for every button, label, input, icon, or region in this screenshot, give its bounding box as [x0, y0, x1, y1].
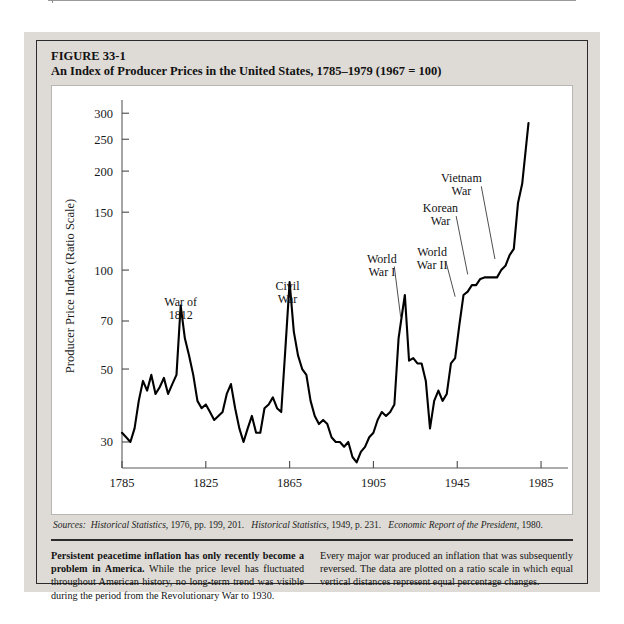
x-tick-label: 1985 — [529, 476, 554, 490]
annotation-label: War — [452, 184, 472, 198]
figure-title: An Index of Producer Prices in the Unite… — [51, 64, 571, 79]
sources-body: Historical Statistics, 1976, pp. 199, 20… — [86, 520, 545, 530]
annotation-label: 1812 — [169, 308, 193, 322]
annotation-label: War I — [368, 265, 395, 279]
y-tick-label: 30 — [101, 435, 114, 449]
running-head-title: VARIATIONS ON MONEY AND MONETARY INSTITU… — [58, 0, 319, 2]
y-tick-label: 300 — [94, 107, 113, 121]
annotation-label: Korean — [423, 201, 458, 215]
annotation-vietnam-war: VietnamWar — [441, 171, 482, 198]
annotation-label: War — [278, 292, 298, 306]
caption-block: Persistent peacetime inflation has only … — [51, 549, 573, 602]
annotation-world-war-i: WorldWar I — [367, 252, 397, 279]
annotation-label: War of — [164, 295, 197, 309]
annotation-label: Vietnam — [441, 171, 482, 185]
x-tick-label: 1865 — [277, 476, 302, 490]
x-tick-label: 1945 — [445, 476, 470, 490]
y-tick-label: 70 — [101, 314, 114, 328]
caption-column-left: Persistent peacetime inflation has only … — [51, 549, 304, 602]
annotation-label: World — [417, 245, 447, 259]
y-tick-label: 250 — [94, 133, 113, 147]
sources-label: Sources: — [53, 520, 86, 530]
x-tick-label: 1905 — [361, 476, 386, 490]
x-tick-label: 1825 — [193, 476, 218, 490]
annotation-label: War — [431, 214, 451, 228]
y-tick-label: 150 — [94, 206, 113, 220]
annotation-label: World — [367, 252, 397, 266]
annotation-korean-war: KoreanWar — [423, 201, 458, 228]
running-head-tick — [52, 0, 53, 3]
figure-number: FIGURE 33-1 — [51, 49, 126, 63]
sources-line: Sources: Historical Statistics, 1976, pp… — [53, 519, 573, 531]
annotation-label: Civil — [276, 279, 301, 293]
annotation-leader-line — [481, 186, 495, 259]
y-axis-title: Producer Price Index (Ratio Scale) — [63, 199, 77, 373]
x-tick-label: 1785 — [110, 476, 135, 490]
producer-price-index-chart: 3002502001501007050301785182518651905194… — [52, 86, 572, 514]
figure-title-block: FIGURE 33-1 An Index of Producer Prices … — [51, 49, 571, 79]
y-tick-label: 50 — [101, 363, 114, 377]
annotation-leader-line — [446, 261, 455, 297]
annotation-war-of-1812: War of1812 — [164, 295, 197, 322]
annotation-civil-war: CivilWar — [276, 279, 301, 306]
running-head: VARIATIONS ON MONEY AND MONETARY INSTITU… — [0, 0, 624, 14]
caption-divider — [51, 539, 573, 541]
annotation-leader-line — [394, 266, 400, 317]
annotation-world-war-ii: WorldWar II — [417, 245, 448, 272]
y-tick-label: 100 — [94, 264, 113, 278]
chart-panel: 3002502001501007050301785182518651905194… — [51, 85, 573, 515]
caption-column-right: Every major war produced an inflation th… — [320, 549, 573, 602]
annotation-label: War II — [417, 258, 448, 272]
page-number: 575 — [561, 0, 576, 2]
figure-box: FIGURE 33-1 An Index of Producer Prices … — [36, 40, 588, 584]
annotation-leader-line — [456, 216, 468, 274]
y-tick-label: 200 — [94, 165, 113, 179]
